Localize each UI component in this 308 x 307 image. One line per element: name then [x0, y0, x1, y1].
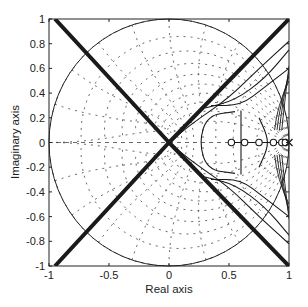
y-tick-label: 0.2 [30, 112, 45, 124]
pole-zero-markers [228, 139, 292, 146]
y-tick-label: -0.8 [26, 235, 45, 247]
y-tick-label: -0.6 [26, 211, 45, 223]
x-axis-label: Real axis [145, 283, 193, 295]
y-tick-label: 0.8 [30, 38, 45, 50]
root-locus-chart: -1-0.500.5110.80.60.40.20-0.2-0.4-0.6-0.… [0, 0, 308, 307]
zero-marker [256, 139, 262, 145]
y-tick-label: -0.2 [26, 161, 45, 173]
locus-branch-upper-outer [169, 41, 289, 142]
x-tick-label: 0.5 [221, 269, 236, 281]
zero-marker [228, 139, 234, 145]
y-tick-label: 0 [39, 137, 45, 149]
y-tick-label: -0.4 [26, 186, 45, 198]
y-tick-label: 1 [39, 13, 45, 25]
y-tick-label: 0.6 [30, 62, 45, 74]
x-tick-label: 0 [166, 269, 172, 281]
y-tick-label: 0.4 [30, 87, 45, 99]
zero-marker [270, 139, 276, 145]
locus-branch-lower-mid [205, 177, 289, 235]
x-tick-label: -0.5 [100, 269, 119, 281]
locus-branch-upper-mid [205, 50, 289, 108]
x-tick-label: -1 [44, 269, 54, 281]
y-tick-label: -1 [35, 260, 45, 272]
y-axis-label: Imaginary axis [9, 105, 21, 179]
locus-branch-lower-outer [169, 143, 289, 244]
x-tick-label: 1 [286, 269, 292, 281]
zero-marker [241, 139, 247, 145]
